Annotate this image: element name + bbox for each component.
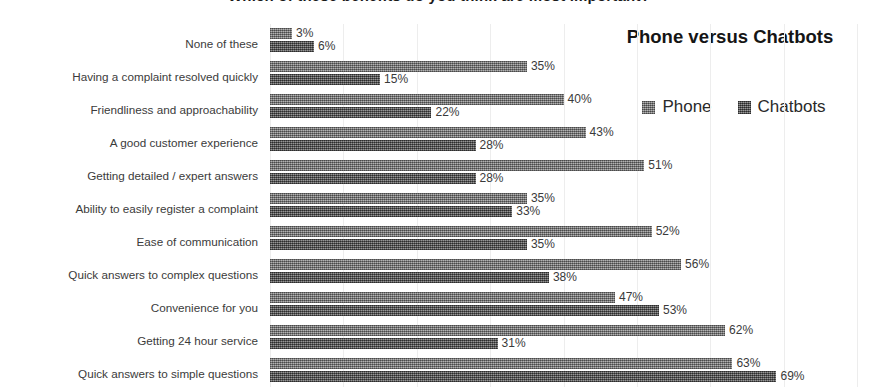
bar-value-label: 38% bbox=[549, 270, 577, 284]
bar-chatbots[interactable] bbox=[270, 74, 380, 85]
bar-value-label: 15% bbox=[380, 72, 408, 86]
bar-phone[interactable] bbox=[270, 61, 527, 72]
bar-chatbots[interactable] bbox=[270, 239, 527, 250]
bar-phone[interactable] bbox=[270, 259, 681, 270]
bar-phone[interactable] bbox=[270, 28, 292, 39]
bar-value-label: 62% bbox=[725, 323, 753, 337]
bar-chatbots[interactable] bbox=[270, 107, 431, 118]
bar-chatbots[interactable] bbox=[270, 272, 549, 283]
bar-chatbots[interactable] bbox=[270, 140, 476, 151]
bar-value-label: 63% bbox=[732, 356, 760, 370]
bar-phone[interactable] bbox=[270, 292, 615, 303]
bar-chatbots[interactable] bbox=[270, 173, 476, 184]
bar-value-label: 28% bbox=[476, 138, 504, 152]
bar-value-label: 28% bbox=[476, 171, 504, 185]
bar-chatbots[interactable] bbox=[270, 41, 314, 52]
bar-value-label: 40% bbox=[564, 92, 592, 106]
bar-value-label: 52% bbox=[652, 224, 680, 238]
category-label: Ability to easily register a complaint bbox=[0, 202, 258, 215]
bar-phone[interactable] bbox=[270, 193, 527, 204]
bar-phone[interactable] bbox=[270, 160, 644, 171]
bar-value-label: 35% bbox=[527, 59, 555, 73]
bar-phone[interactable] bbox=[270, 127, 586, 138]
bar-value-label: 31% bbox=[498, 336, 526, 350]
bar-value-label: 6% bbox=[314, 39, 335, 53]
bar-value-label: 51% bbox=[644, 158, 672, 172]
category-label: Getting 24 hour service bbox=[0, 334, 258, 347]
bar-chatbots[interactable] bbox=[270, 206, 512, 217]
gridline bbox=[784, 24, 785, 387]
bar-phone[interactable] bbox=[270, 325, 725, 336]
bar-value-label: 43% bbox=[586, 125, 614, 139]
category-label: Quick answers to simple questions bbox=[0, 367, 258, 380]
category-label: Convenience for you bbox=[0, 301, 258, 314]
category-label: Quick answers to complex questions bbox=[0, 268, 258, 281]
category-label: A good customer experience bbox=[0, 136, 258, 149]
bar-value-label: 33% bbox=[512, 204, 540, 218]
bar-phone[interactable] bbox=[270, 226, 652, 237]
bar-value-label: 35% bbox=[527, 237, 555, 251]
bar-chatbots[interactable] bbox=[270, 305, 659, 316]
bar-value-label: 22% bbox=[431, 105, 459, 119]
chart-figure: Which of these benefits do you think are… bbox=[0, 0, 878, 387]
category-label: Ease of communication bbox=[0, 235, 258, 248]
category-label: Friendliness and approachability bbox=[0, 103, 258, 116]
plot-area: None of these3%6%Having a complaint reso… bbox=[0, 24, 878, 387]
bar-value-label: 35% bbox=[527, 191, 555, 205]
category-label: Having a complaint resolved quickly bbox=[0, 70, 258, 83]
bar-value-label: 53% bbox=[659, 303, 687, 317]
gridline bbox=[857, 24, 858, 387]
bar-phone[interactable] bbox=[270, 358, 732, 369]
figure-title-cutoff: Which of these benefits do you think are… bbox=[0, 0, 878, 4]
category-label: None of these bbox=[0, 37, 258, 50]
bar-value-label: 56% bbox=[681, 257, 709, 271]
bar-chatbots[interactable] bbox=[270, 338, 498, 349]
bar-chatbots[interactable] bbox=[270, 371, 776, 382]
bar-value-label: 47% bbox=[615, 290, 643, 304]
category-label: Getting detailed / expert answers bbox=[0, 169, 258, 182]
bar-phone[interactable] bbox=[270, 94, 564, 105]
bar-value-label: 69% bbox=[776, 369, 804, 383]
bar-value-label: 3% bbox=[292, 26, 313, 40]
